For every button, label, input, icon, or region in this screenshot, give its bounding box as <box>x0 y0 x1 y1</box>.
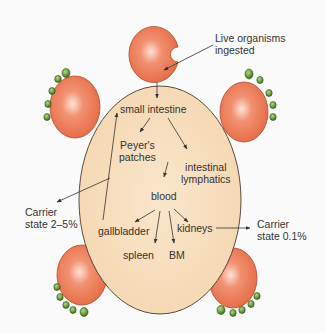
label-live-organisms: Live organisms ingested <box>215 32 286 56</box>
label-intestinal-lymphatics: intestinal lymphatics <box>181 161 231 185</box>
limb-cell-top-left <box>50 76 100 138</box>
limb-cell-top-right <box>220 82 268 142</box>
head-cell <box>129 27 178 83</box>
label-kidneys: kidneys <box>177 222 213 234</box>
label-bm: BM <box>169 249 185 261</box>
label-small-intestine: small intestine <box>120 103 187 115</box>
label-peyers-patches: Peyer's patches <box>119 139 156 163</box>
label-line: Carrier <box>25 206 78 218</box>
label-line: Peyer's <box>119 139 156 151</box>
label-line: Carrier <box>257 218 307 230</box>
diagram-canvas: Live organisms ingested small intestine … <box>0 0 326 333</box>
label-spleen: spleen <box>123 249 154 261</box>
label-carrier-right: Carrier state 0.1% <box>257 218 307 242</box>
label-blood: blood <box>151 190 177 202</box>
label-line: Live organisms <box>215 32 286 44</box>
label-carrier-left: Carrier state 2–5% <box>25 206 78 230</box>
label-line: patches <box>119 151 156 163</box>
label-line: intestinal <box>181 161 231 173</box>
label-gallbladder: gallbladder <box>98 225 149 237</box>
label-line: lymphatics <box>181 173 231 185</box>
label-line: state 2–5% <box>25 218 78 230</box>
label-line: ingested <box>215 44 286 56</box>
label-line: state 0.1% <box>257 230 307 242</box>
